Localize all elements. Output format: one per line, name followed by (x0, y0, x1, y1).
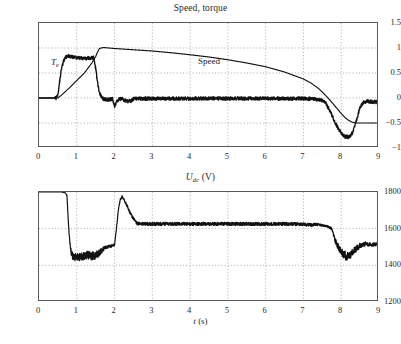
speed-series-label: Speed (198, 56, 220, 66)
panel-speed-torque: Speed, torque 1.5 1 0.5 0 −0.5 −1 0 1 2 … (0, 0, 401, 170)
bottom-xtick-1: 1 (74, 305, 78, 315)
bottom-plot-svg (39, 192, 378, 301)
speed-label-text: Speed (198, 56, 220, 66)
bottom-xtick-3: 3 (149, 305, 153, 315)
figure-root: Speed, torque 1.5 1 0.5 0 −0.5 −1 0 1 2 … (0, 0, 401, 344)
top-xtick-6: 6 (263, 151, 267, 161)
top-plot-svg (39, 23, 378, 147)
top-xtick-7: 7 (300, 151, 304, 161)
top-xtick-3: 3 (149, 151, 153, 161)
bottom-xaxis-label: t (s) (0, 316, 401, 326)
top-xtick-8: 8 (338, 151, 342, 161)
top-xtick-9: 9 (376, 151, 380, 161)
bottom-plot-area (38, 191, 378, 301)
top-xtick-4: 4 (187, 151, 191, 161)
top-plot-area (38, 22, 378, 147)
udc-title-symbol: U (186, 172, 193, 182)
top-xtick-1: 1 (74, 151, 78, 161)
bottom-chart-title: Udc (V) (0, 172, 401, 183)
top-chart-title-text: Speed, torque (174, 3, 228, 13)
top-chart-title: Speed, torque (0, 3, 401, 13)
bottom-xtick-5: 5 (225, 305, 229, 315)
top-xtick-2: 2 (111, 151, 115, 161)
udc-title-unit: (V) (199, 172, 215, 182)
bottom-xtick-4: 4 (187, 305, 191, 315)
bottom-xtick-7: 7 (300, 305, 304, 315)
top-xtick-0: 0 (36, 151, 40, 161)
bottom-xtick-2: 2 (111, 305, 115, 315)
panel-udc: Udc (V) 1800 1600 1400 1200 0 1 2 3 4 5 … (0, 170, 401, 344)
bottom-xtick-6: 6 (263, 305, 267, 315)
torque-series-label: Te (51, 57, 59, 68)
top-xtick-5: 5 (225, 151, 229, 161)
bottom-xtick-8: 8 (338, 305, 342, 315)
torque-label-subscript: e (56, 61, 59, 68)
bottom-xtick-0: 0 (36, 305, 40, 315)
xlabel-unit: (s) (196, 316, 208, 326)
bottom-xtick-9: 9 (376, 305, 380, 315)
